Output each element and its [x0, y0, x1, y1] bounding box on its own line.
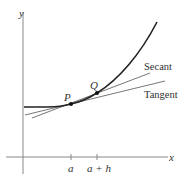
tick-a-plus-h-label: a + h	[87, 162, 111, 174]
function-curve	[24, 22, 157, 107]
secant-label: Secant	[144, 61, 172, 72]
point-q-label: Q	[90, 79, 98, 91]
point-p-label: P	[63, 91, 71, 103]
tangent-label: Tangent	[144, 89, 178, 100]
secant-tangent-diagram: y x P Q a a + h Secant Tangent	[0, 0, 184, 182]
x-axis-label: x	[168, 151, 174, 163]
y-axis-label: y	[18, 7, 24, 19]
tick-a-label: a	[68, 162, 74, 174]
point-q	[95, 91, 99, 95]
